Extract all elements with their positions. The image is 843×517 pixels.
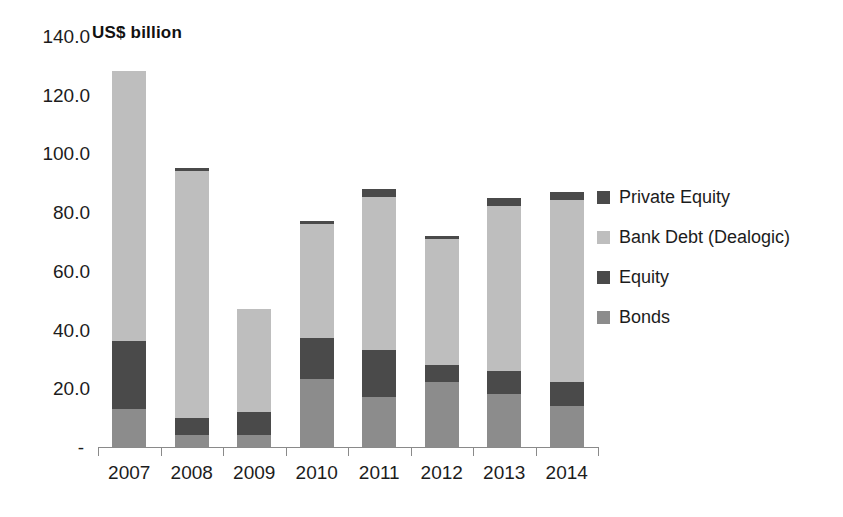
bar-segment[interactable] [237, 435, 271, 447]
bar-segment[interactable] [300, 379, 334, 447]
bar-segment[interactable] [112, 409, 146, 447]
legend-label: Bonds [619, 307, 670, 327]
bar-segment[interactable] [487, 394, 521, 447]
legend-item[interactable]: Equity [597, 261, 790, 293]
chart-legend: Private EquityBank Debt (Dealogic)Equity… [597, 181, 790, 341]
bar-segment[interactable] [425, 239, 459, 365]
bar-segment[interactable] [550, 406, 584, 447]
x-tick-label-2007: 2007 [108, 462, 150, 484]
bar-segment[interactable] [362, 397, 396, 447]
y-tick-label: 60.0 [0, 261, 90, 280]
bar-segment[interactable] [425, 365, 459, 383]
legend-swatch-icon [597, 191, 610, 204]
bar-segment[interactable] [362, 189, 396, 198]
x-tick-mark [348, 447, 349, 456]
legend-item[interactable]: Private Equity [597, 181, 790, 213]
x-tick-mark [286, 447, 287, 456]
bar-segment[interactable] [112, 71, 146, 341]
bar-segment[interactable] [175, 171, 209, 418]
bar-segment[interactable] [487, 206, 521, 370]
legend-label: Private Equity [619, 187, 730, 207]
legend-label: Equity [619, 267, 669, 287]
x-axis: 20072008200920102011201220132014 [98, 462, 598, 492]
legend-swatch-icon [597, 271, 610, 284]
x-tick-mark [223, 447, 224, 456]
x-tick-label-2010: 2010 [296, 462, 338, 484]
legend-item[interactable]: Bank Debt (Dealogic) [597, 221, 790, 253]
bar-group-2013[interactable] [487, 198, 521, 448]
bar-segment[interactable] [112, 341, 146, 409]
bar-group-2007[interactable] [112, 71, 146, 447]
bar-segment[interactable] [425, 382, 459, 447]
x-tick-label-2013: 2013 [483, 462, 525, 484]
x-tick-label-2014: 2014 [546, 462, 588, 484]
y-tick-label: 40.0 [0, 320, 90, 339]
bar-group-2009[interactable] [237, 309, 271, 447]
bar-segment[interactable] [487, 198, 521, 207]
plot-area [98, 36, 598, 447]
legend-swatch-icon [597, 231, 610, 244]
y-tick-label: 120.0 [0, 85, 90, 104]
y-tick-label: 140.0 [0, 27, 90, 46]
x-tick-mark [411, 447, 412, 456]
x-tick-mark [98, 447, 99, 456]
bar-group-2010[interactable] [300, 221, 334, 447]
bar-group-2014[interactable] [550, 192, 584, 447]
bar-group-2008[interactable] [175, 168, 209, 447]
y-tick-label: 20.0 [0, 379, 90, 398]
legend-label: Bank Debt (Dealogic) [619, 227, 790, 247]
bar-segment[interactable] [487, 371, 521, 394]
x-tick-mark [473, 447, 474, 456]
bar-segment[interactable] [550, 200, 584, 382]
bar-group-2011[interactable] [362, 189, 396, 447]
x-tick-mark [598, 447, 599, 456]
y-tick-label: 100.0 [0, 144, 90, 163]
bar-segment[interactable] [175, 418, 209, 436]
x-tick-label-2008: 2008 [171, 462, 213, 484]
bar-segment[interactable] [550, 382, 584, 405]
y-tick-label: - [0, 438, 90, 457]
bar-segment[interactable] [362, 350, 396, 397]
legend-swatch-icon [597, 311, 610, 324]
bars-layer [98, 36, 598, 447]
legend-item[interactable]: Bonds [597, 301, 790, 333]
bar-segment[interactable] [300, 224, 334, 338]
x-tick-label-2011: 2011 [359, 462, 400, 484]
bar-segment[interactable] [362, 197, 396, 350]
x-tick-mark [161, 447, 162, 456]
bar-segment[interactable] [175, 435, 209, 447]
y-axis: 140.0120.0100.080.060.040.020.0- [0, 36, 90, 447]
y-tick-label: 80.0 [0, 203, 90, 222]
bar-segment[interactable] [237, 309, 271, 412]
bar-segment[interactable] [550, 192, 584, 201]
bar-group-2012[interactable] [425, 236, 459, 447]
x-tick-mark [536, 447, 537, 456]
bar-segment[interactable] [300, 338, 334, 379]
x-tick-label-2012: 2012 [421, 462, 463, 484]
bar-segment[interactable] [237, 412, 271, 435]
chart-container: US$ billion 140.0120.0100.080.060.040.02… [0, 0, 843, 517]
x-tick-label-2009: 2009 [233, 462, 275, 484]
